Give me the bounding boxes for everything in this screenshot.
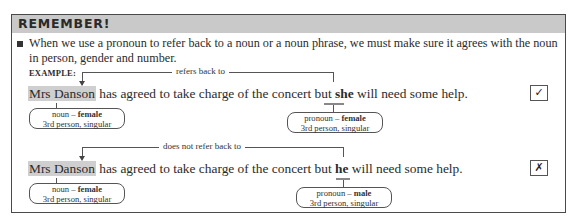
pronoun-tag-stem-1: [333, 105, 334, 112]
connector-label-1: refers back to: [172, 66, 229, 76]
check-icon: ✓: [530, 85, 548, 101]
noun-tag-1: noun – female 3rd person, singular: [29, 108, 125, 129]
pronoun-tag-stem-2: [343, 180, 344, 187]
example-sentence-2: Mrs Danson has agreed to take charge of …: [28, 161, 463, 177]
tag-gender: female: [341, 113, 365, 123]
tag-gender: female: [78, 184, 102, 194]
connector-label-2: does not refer back to: [159, 141, 245, 151]
example-sentence-1: Mrs Danson has agreed to take charge of …: [28, 86, 468, 102]
pronoun: he: [335, 161, 348, 176]
connector-line-2-right-drop: [343, 147, 344, 157]
tag-gender: female: [78, 109, 102, 119]
sentence-middle: has agreed to take charge of the concert…: [96, 86, 335, 101]
rule-text: When we use a pronoun to refer back to a…: [29, 36, 559, 66]
tag-person-number: 3rd person, singular: [43, 119, 112, 129]
tag-person-number: 3rd person, singular: [43, 194, 112, 204]
tag-prefix: noun –: [52, 184, 78, 194]
pronoun-tag-2: pronoun – male 3rd person, singular: [296, 187, 392, 208]
tag-prefix: noun –: [52, 109, 78, 119]
remember-box: REMEMBER! When we use a pronoun to refer…: [11, 14, 566, 213]
remember-title: REMEMBER!: [18, 16, 110, 31]
noun-tag-2: noun – female 3rd person, singular: [29, 183, 125, 204]
sentence-end: will need some help.: [354, 86, 468, 101]
tag-gender: male: [354, 188, 372, 198]
pronoun: she: [335, 86, 354, 101]
remember-header: REMEMBER!: [12, 15, 565, 33]
pronoun-underline-1: [324, 103, 344, 105]
tag-person-number: 3rd person, singular: [310, 198, 379, 208]
noun-highlight: Mrs Danson: [28, 161, 96, 176]
square-bullet-icon: [17, 41, 23, 47]
cross-icon: ✗: [530, 160, 548, 176]
sentence-middle: has agreed to take charge of the concert…: [96, 161, 335, 176]
tag-person-number: 3rd person, singular: [301, 123, 370, 133]
noun-highlight: Mrs Danson: [28, 86, 96, 101]
tag-prefix: pronoun –: [304, 113, 341, 123]
connector-line-1-right-drop: [333, 72, 334, 82]
pronoun-tag-1: pronoun – female 3rd person, singular: [287, 112, 383, 133]
example-label: EXAMPLE:: [29, 68, 76, 78]
sentence-end: will need some help.: [348, 161, 462, 176]
tag-prefix: pronoun –: [317, 188, 354, 198]
